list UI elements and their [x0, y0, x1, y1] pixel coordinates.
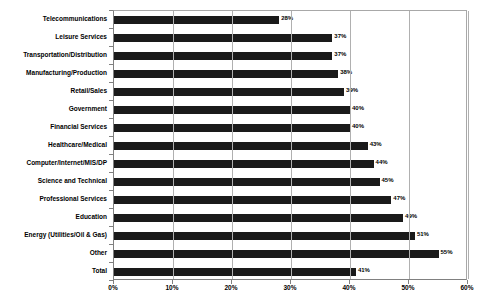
y-axis-tick-mark	[109, 190, 113, 191]
bar	[114, 268, 356, 276]
category-label: Transportation/Distribution	[23, 46, 107, 64]
bar	[114, 52, 332, 60]
y-axis-tick-mark	[109, 262, 113, 263]
bar	[114, 214, 403, 222]
bar	[114, 34, 332, 42]
y-axis-tick-mark	[109, 226, 113, 227]
gridline	[409, 11, 410, 279]
x-axis-tick-label: 50%	[401, 284, 414, 291]
bar	[114, 232, 415, 240]
category-label: Professional Services	[39, 190, 107, 208]
y-axis-tick-mark	[109, 244, 113, 245]
bar-value-label: 43%	[370, 139, 382, 149]
x-axis-tick-label: 40%	[342, 284, 355, 291]
y-axis-tick-mark	[109, 100, 113, 101]
gridline	[173, 11, 174, 279]
bar-chart: TelecommunicationsLeisure ServicesTransp…	[0, 0, 489, 305]
category-label: Computer/Internet/MIS/DP	[26, 154, 107, 172]
category-label: Telecommunications	[43, 10, 107, 28]
bar-value-label: 51%	[417, 229, 429, 239]
bar-value-label: 44%	[376, 157, 388, 167]
bar-value-label: 41%	[358, 265, 370, 275]
plot-area: 28%37%37%38%39%40%40%43%44%45%47%49%51%5…	[113, 10, 467, 280]
bar-value-label: 37%	[334, 31, 346, 41]
x-axis-tick-label: 10%	[165, 284, 178, 291]
bar	[114, 142, 368, 150]
y-axis-tick-mark	[109, 10, 113, 11]
gridline	[232, 11, 233, 279]
x-axis-tick-label: 0%	[108, 284, 117, 291]
bar	[114, 16, 279, 24]
bar-value-label: 40%	[352, 121, 364, 131]
x-axis-tick-labels: 0%10%20%30%40%50%60%	[113, 284, 467, 300]
gridline	[291, 11, 292, 279]
category-label: Manufacturing/Production	[26, 64, 107, 82]
category-label: Energy (Utilities/Oil & Gas)	[24, 226, 107, 244]
gridline	[468, 11, 469, 279]
x-axis-tick-label: 60%	[460, 284, 473, 291]
bar-value-label: 45%	[382, 175, 394, 185]
y-axis-tick-mark	[109, 136, 113, 137]
bar	[114, 160, 374, 168]
category-label: Healthcare/Medical	[48, 136, 107, 154]
y-axis-tick-mark	[109, 208, 113, 209]
bar-rows: 28%37%37%38%39%40%40%43%44%45%47%49%51%5…	[114, 11, 466, 279]
bar-value-label: 47%	[393, 193, 405, 203]
category-label: Leisure Services	[55, 28, 107, 46]
category-label: Financial Services	[50, 118, 107, 136]
y-axis-tick-mark	[109, 82, 113, 83]
y-axis-tick-mark	[109, 280, 113, 281]
bar-value-label: 49%	[405, 211, 417, 221]
y-axis-tick-mark	[109, 172, 113, 173]
y-axis-tick-mark	[109, 154, 113, 155]
bar	[114, 88, 344, 96]
category-label: Education	[76, 208, 107, 226]
bar	[114, 178, 380, 186]
y-axis-tick-mark	[109, 118, 113, 119]
category-label: Retail/Sales	[71, 82, 108, 100]
bar-value-label: 55%	[441, 247, 453, 257]
y-axis-tick-mark	[109, 28, 113, 29]
x-axis-tick-label: 20%	[224, 284, 237, 291]
y-axis-tick-mark	[109, 64, 113, 65]
bar-value-label: 40%	[352, 103, 364, 113]
category-label: Government	[69, 100, 107, 118]
bar	[114, 70, 338, 78]
bar	[114, 250, 439, 258]
category-label: Other	[90, 244, 107, 262]
x-axis-tick-label: 30%	[283, 284, 296, 291]
y-axis-tick-mark	[109, 46, 113, 47]
bar-value-label: 39%	[346, 85, 358, 95]
gridline	[350, 11, 351, 279]
category-label: Science and Technical	[38, 172, 107, 190]
category-label: Total	[92, 262, 107, 280]
bar-value-label: 37%	[334, 49, 346, 59]
category-axis-labels: TelecommunicationsLeisure ServicesTransp…	[0, 10, 110, 280]
